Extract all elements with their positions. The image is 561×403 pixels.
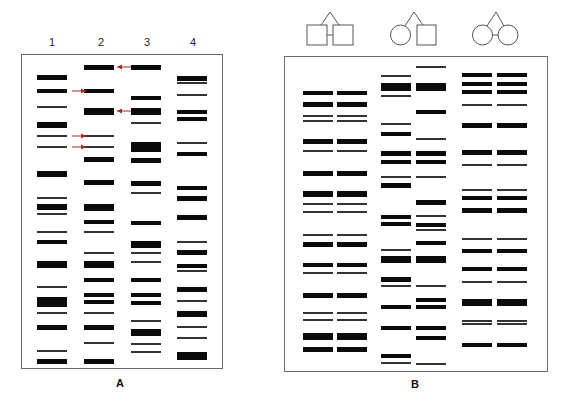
pedigree-male-male-twins bbox=[307, 12, 353, 45]
female-circle-icon bbox=[498, 25, 518, 45]
female-circle-icon bbox=[391, 25, 411, 45]
arrow-right-icon bbox=[81, 145, 86, 150]
pedigree-female-female-twins bbox=[473, 12, 519, 45]
arrow-right-icon bbox=[81, 134, 86, 139]
female-circle-icon bbox=[473, 25, 493, 45]
pedigree-female-male-twins bbox=[391, 12, 437, 45]
annotation-layer bbox=[0, 0, 561, 403]
male-square-icon bbox=[307, 25, 327, 45]
male-square-icon bbox=[417, 25, 436, 45]
male-square-icon bbox=[333, 25, 353, 45]
arrow-right-icon bbox=[81, 89, 86, 94]
band-arrows bbox=[72, 65, 131, 150]
arrow-left-icon bbox=[117, 65, 122, 70]
panel-label-a: A bbox=[116, 377, 124, 389]
arrow-left-icon bbox=[117, 109, 122, 114]
panel-label-b: B bbox=[411, 378, 419, 390]
